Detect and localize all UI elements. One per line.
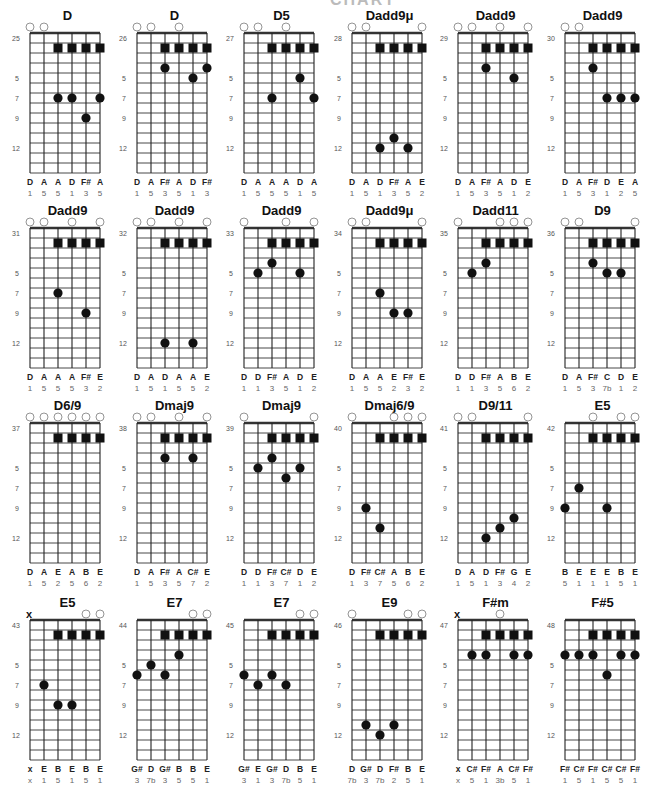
finger-dot: [560, 503, 569, 512]
root-square-marker: [617, 44, 626, 53]
root-square-marker: [482, 239, 491, 248]
chord-diagram: D9/114157912D1A5D1F#3G4E2: [428, 390, 535, 585]
note-label: A: [190, 372, 196, 382]
fret-marker: 9: [550, 115, 554, 122]
open-string-icon: [418, 610, 426, 618]
root-square-marker: [510, 239, 519, 248]
fretboard-grid: 4257912B5E1E1E1B5E1: [535, 390, 648, 590]
root-square-marker: [96, 631, 105, 640]
note-label: E: [419, 567, 425, 577]
fret-marker: 12: [440, 340, 448, 347]
fret-marker: 7: [337, 682, 341, 689]
note-label: F#: [267, 372, 277, 382]
note-label: A: [497, 177, 503, 187]
fret-marker: 5: [15, 270, 19, 277]
root-square-marker: [617, 434, 626, 443]
finger-dot: [53, 93, 62, 102]
finger-dot: [81, 113, 90, 122]
chart-number: 27: [226, 35, 234, 42]
root-square-marker: [161, 434, 170, 443]
root-square-marker: [296, 239, 305, 248]
chart-number: 25: [12, 35, 20, 42]
fret-marker: 12: [334, 340, 342, 347]
fret-marker: 12: [547, 535, 555, 542]
finger-dot: [132, 670, 141, 679]
note-label: E: [419, 372, 425, 382]
finger-dot: [509, 650, 518, 659]
open-string-icon: [133, 218, 141, 226]
open-string-icon: [254, 23, 262, 31]
fret-marker: 12: [119, 340, 127, 347]
note-label: C#: [281, 567, 292, 577]
fret-marker: 12: [547, 145, 555, 152]
note-label: F#: [523, 764, 533, 774]
note-label: D: [349, 567, 355, 577]
note-label: G#: [360, 764, 372, 774]
note-label: G#: [238, 764, 250, 774]
note-label: A: [576, 372, 582, 382]
root-square-marker: [203, 434, 212, 443]
root-square-marker: [482, 434, 491, 443]
fret-marker: 5: [122, 270, 126, 277]
chord-diagram: E54357912xxxE1B5E1B5E1: [0, 587, 107, 782]
root-square-marker: [631, 44, 640, 53]
open-string-icon: [310, 610, 318, 618]
root-square-marker: [68, 239, 77, 248]
finger-dot: [281, 473, 290, 482]
degree-label: 5: [191, 776, 196, 785]
open-string-icon: [575, 218, 583, 226]
open-string-icon: [348, 23, 356, 31]
fret-marker: 7: [229, 290, 233, 297]
finger-dot: [481, 533, 490, 542]
finger-dot: [574, 650, 583, 659]
root-square-marker: [310, 44, 319, 53]
root-square-marker: [175, 44, 184, 53]
note-label: A: [363, 372, 369, 382]
fret-marker: 7: [443, 682, 447, 689]
finger-dot: [253, 463, 262, 472]
fret-marker: 5: [550, 662, 554, 669]
root-square-marker: [603, 239, 612, 248]
open-string-icon: [617, 413, 625, 421]
note-label: D: [562, 177, 568, 187]
note-label: E: [311, 764, 317, 774]
root-square-marker: [54, 239, 63, 248]
open-string-icon: [296, 610, 304, 618]
open-string-icon: [575, 23, 583, 31]
degree-label: 3: [242, 776, 247, 785]
finger-dot: [146, 660, 155, 669]
finger-dot: [375, 730, 384, 739]
root-square-marker: [82, 239, 91, 248]
finger-dot: [361, 503, 370, 512]
note-label: E: [69, 764, 75, 774]
note-label: A: [363, 177, 369, 187]
open-string-icon: [310, 413, 318, 421]
degree-label: 5: [470, 776, 475, 785]
root-square-marker: [404, 239, 413, 248]
note-label: D: [511, 177, 517, 187]
note-label: A: [97, 177, 103, 187]
open-string-icon: [68, 413, 76, 421]
finger-dot: [630, 650, 639, 659]
root-square-marker: [496, 239, 505, 248]
root-square-marker: [268, 44, 277, 53]
open-string-icon: [54, 413, 62, 421]
root-square-marker: [589, 434, 598, 443]
degree-label: 2: [392, 776, 397, 785]
root-square-marker: [510, 434, 519, 443]
finger-dot: [267, 453, 276, 462]
fret-marker: 12: [119, 732, 127, 739]
open-string-icon: [282, 218, 290, 226]
note-label: D: [297, 177, 303, 187]
root-square-marker: [617, 239, 626, 248]
open-string-icon: [82, 610, 90, 618]
root-square-marker: [175, 434, 184, 443]
root-square-marker: [310, 631, 319, 640]
chart-number: 45: [226, 622, 234, 629]
note-label: A: [55, 177, 61, 187]
fret-marker: 9: [550, 702, 554, 709]
open-string-icon: [310, 218, 318, 226]
note-label: D: [162, 372, 168, 382]
open-string-icon: [282, 23, 290, 31]
fret-marker: 5: [122, 465, 126, 472]
